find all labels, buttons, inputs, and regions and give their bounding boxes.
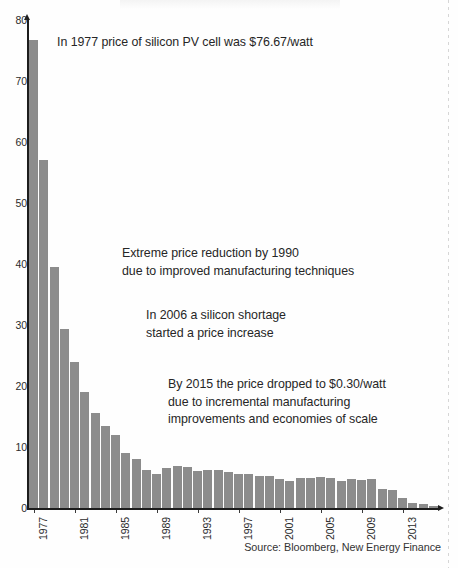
bar <box>367 479 376 508</box>
x-tick-mark <box>198 510 199 513</box>
x-tick-mark <box>239 510 240 513</box>
x-tick-label: 2005 <box>325 517 336 540</box>
x-tick-label: 1985 <box>120 517 131 540</box>
bar <box>183 467 192 508</box>
bar <box>193 471 202 508</box>
x-tick-label: 2001 <box>284 517 295 540</box>
bar <box>214 470 223 508</box>
x-tick-mark <box>34 510 35 513</box>
bar <box>347 479 356 508</box>
annotation-1977-price: In 1977 price of silicon PV cell was $76… <box>57 34 313 52</box>
x-tick-label: 1977 <box>38 517 49 540</box>
y-tick-label: 10 <box>1 442 27 453</box>
y-tick-label: 50 <box>1 198 27 209</box>
x-tick-label: 2013 <box>407 517 418 540</box>
x-tick-mark <box>321 510 322 513</box>
bar <box>80 392 89 508</box>
x-tick-mark <box>362 510 363 513</box>
x-tick-mark <box>75 510 76 513</box>
x-tick-label: 1993 <box>202 517 213 540</box>
bar <box>285 481 294 508</box>
bar <box>337 481 346 508</box>
x-axis-tick-labels: 1977198119851989199319972001200520092013 <box>0 508 458 568</box>
chart-source-note: Source: Bloomberg, New Energy Finance <box>0 541 441 553</box>
bar <box>265 476 274 508</box>
bar <box>50 267 59 508</box>
bar <box>70 362 79 508</box>
bar <box>101 426 110 508</box>
x-tick-mark <box>116 510 117 513</box>
bar <box>142 470 151 508</box>
y-axis-tick-labels: 01020304050607080 <box>0 0 27 568</box>
bar <box>255 476 264 508</box>
bar <box>296 478 305 508</box>
x-tick-mark <box>157 510 158 513</box>
bar <box>316 477 325 508</box>
bar <box>132 459 141 508</box>
bar <box>378 489 387 508</box>
bar <box>388 490 397 508</box>
bar <box>121 453 130 509</box>
x-tick-label: 1981 <box>79 517 90 540</box>
annotation-1990-reduction: Extreme price reduction by 1990 due to i… <box>122 245 354 280</box>
page-background: 01020304050607080 1977198119851989199319… <box>0 0 458 568</box>
x-tick-mark <box>280 510 281 513</box>
bar <box>275 479 284 508</box>
bar <box>244 474 253 508</box>
y-tick-label: 70 <box>1 76 27 87</box>
bar <box>162 468 171 508</box>
bar <box>152 474 161 508</box>
bar <box>357 480 366 508</box>
bar <box>60 329 69 508</box>
bar <box>29 40 38 508</box>
x-tick-mark <box>403 510 404 513</box>
annotation-2015-price: By 2015 the price dropped to $0.30/watt … <box>168 376 386 429</box>
x-tick-label: 2009 <box>366 517 377 540</box>
bar <box>306 478 315 509</box>
bar <box>39 160 48 508</box>
y-tick-label: 30 <box>1 320 27 331</box>
x-tick-label: 1989 <box>161 517 172 540</box>
bar <box>326 478 335 509</box>
y-tick-label: 40 <box>1 259 27 270</box>
x-tick-label: 1997 <box>243 517 254 540</box>
bar <box>111 435 120 508</box>
y-tick-label: 20 <box>1 381 27 392</box>
bar <box>203 470 212 508</box>
bar <box>91 413 100 508</box>
bar <box>398 498 407 508</box>
pv-price-bar-chart: 01020304050607080 1977198119851989199319… <box>0 0 458 568</box>
annotation-2006-shortage: In 2006 a silicon shortage started a pri… <box>146 307 286 342</box>
bar <box>173 466 182 508</box>
y-tick-label: 80 <box>1 15 27 26</box>
bar <box>234 474 243 508</box>
y-tick-label: 60 <box>1 137 27 148</box>
bar <box>224 472 233 508</box>
